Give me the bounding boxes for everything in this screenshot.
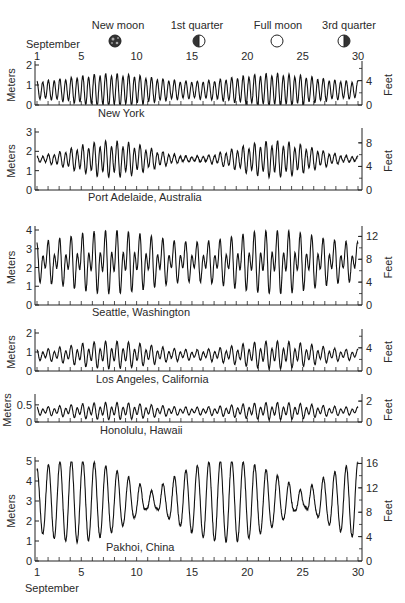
left-tick-label: 1 bbox=[26, 79, 32, 91]
right-tick-label: 4 bbox=[366, 160, 372, 172]
x-tick-label-bottom: 20 bbox=[241, 566, 253, 578]
month-label-top: September bbox=[26, 38, 80, 50]
right-tick-label: 12 bbox=[366, 482, 378, 494]
station-label: Port Adelaide, Australia bbox=[88, 191, 203, 203]
x-tick-label-top: 15 bbox=[186, 50, 198, 62]
tide-panel: 01204MetersFeetNew York bbox=[5, 59, 394, 119]
left-tick-label: 1 bbox=[26, 535, 32, 547]
right-tick-label: 12 bbox=[366, 230, 378, 242]
left-tick-label: 4 bbox=[26, 224, 32, 236]
tide-panel: 0123450481216MetersFeetPakhoi, China bbox=[5, 455, 394, 567]
first-quarter-icon bbox=[193, 35, 205, 47]
left-tick-label: 0 bbox=[26, 184, 32, 196]
chart-header: September New moon 1st quarter Full moon… bbox=[26, 19, 376, 50]
left-tick-label: 0.5 bbox=[17, 399, 32, 411]
right-tick-label: 2 bbox=[366, 395, 372, 407]
x-tick-label-top: 5 bbox=[78, 50, 84, 62]
ylabel-feet: Feet bbox=[382, 256, 394, 278]
x-tick-label-top: 20 bbox=[241, 50, 253, 62]
ylabel-feet: Feet bbox=[382, 500, 394, 522]
right-tick-label: 4 bbox=[366, 276, 372, 288]
station-label: Pakhoi, China bbox=[106, 541, 175, 553]
x-tick-label-bottom: 25 bbox=[297, 566, 309, 578]
right-tick-label: 0 bbox=[366, 99, 372, 111]
tide-panels: 01204MetersFeetNew York0123048MetersFeet… bbox=[1, 50, 394, 578]
left-tick-label: 3 bbox=[26, 243, 32, 255]
left-tick-label: 2 bbox=[26, 145, 32, 157]
right-tick-label: 0 bbox=[366, 299, 372, 311]
station-label: Los Angeles, California bbox=[96, 373, 209, 385]
ylabel-meters: Meters bbox=[5, 68, 17, 102]
tide-curve bbox=[37, 402, 358, 419]
tide-curve bbox=[37, 73, 358, 104]
tide-curve bbox=[37, 141, 358, 178]
left-tick-label: 2 bbox=[26, 327, 32, 339]
left-tick-label: 2 bbox=[26, 59, 32, 71]
moon-label-new: New moon bbox=[92, 19, 145, 31]
month-label-bottom: September bbox=[25, 582, 79, 594]
left-tick-label: 1 bbox=[26, 165, 32, 177]
right-tick-label: 8 bbox=[366, 506, 372, 518]
x-tick-label-top: 25 bbox=[297, 50, 309, 62]
ylabel-feet: Feet bbox=[382, 399, 394, 421]
left-tick-label: 2 bbox=[26, 262, 32, 274]
x-tick-label-bottom: 15 bbox=[186, 566, 198, 578]
right-tick-label: 0 bbox=[366, 365, 372, 377]
tide-panel: 0123048MetersFeetPort Adelaide, Australi… bbox=[5, 126, 394, 203]
right-tick-label: 4 bbox=[366, 342, 372, 354]
right-tick-label: 0 bbox=[366, 184, 372, 196]
ylabel-meters: Meters bbox=[5, 144, 17, 178]
left-tick-label: 2 bbox=[26, 515, 32, 527]
ylabel-meters: Meters bbox=[5, 335, 17, 369]
right-tick-label: 4 bbox=[366, 75, 372, 87]
left-tick-label: 0 bbox=[26, 299, 32, 311]
moon-phases: New moon 1st quarter Full moon 3rd quart… bbox=[92, 19, 377, 47]
left-tick-label: 0 bbox=[26, 416, 32, 428]
tide-curve bbox=[37, 231, 358, 294]
left-tick-label: 3 bbox=[26, 126, 32, 138]
left-tick-label: 0 bbox=[26, 555, 32, 567]
right-tick-label: 8 bbox=[366, 253, 372, 265]
left-tick-label: 0 bbox=[26, 99, 32, 111]
tide-chart: September New moon 1st quarter Full moon… bbox=[0, 0, 405, 603]
x-tick-label-bottom: 1 bbox=[34, 566, 40, 578]
moon-label-third-quarter: 3rd quarter bbox=[322, 19, 376, 31]
ylabel-meters: Meters bbox=[5, 250, 17, 284]
right-tick-label: 16 bbox=[366, 457, 378, 469]
tide-curve bbox=[37, 462, 358, 543]
right-tick-label: 0 bbox=[366, 416, 372, 428]
right-tick-label: 0 bbox=[366, 555, 372, 567]
ylabel-feet: Feet bbox=[382, 150, 394, 172]
x-tick-label-top: 30 bbox=[352, 50, 364, 62]
left-tick-label: 1 bbox=[26, 280, 32, 292]
station-label: Honolulu, Hawaii bbox=[100, 424, 183, 436]
x-tick-label-top: 10 bbox=[130, 50, 142, 62]
tide-curve bbox=[37, 341, 358, 369]
tide-panel: 01204MetersFeetLos Angeles, California bbox=[5, 327, 394, 385]
new-moon-icon bbox=[109, 35, 121, 47]
left-tick-label: 0 bbox=[26, 365, 32, 377]
ylabel-feet: Feet bbox=[382, 74, 394, 96]
station-label: New York bbox=[98, 107, 145, 119]
left-tick-label: 4 bbox=[26, 475, 32, 487]
moon-label-full: Full moon bbox=[254, 19, 302, 31]
left-tick-label: 3 bbox=[26, 495, 32, 507]
full-moon-icon bbox=[271, 35, 283, 47]
ylabel-meters: Meters bbox=[1, 393, 13, 427]
ylabel-feet: Feet bbox=[382, 341, 394, 363]
x-tick-label-bottom: 5 bbox=[78, 566, 84, 578]
third-quarter-icon bbox=[338, 35, 350, 47]
station-label: Seattle, Washington bbox=[92, 306, 190, 318]
x-tick-label-bottom: 10 bbox=[130, 566, 142, 578]
tide-panel: 0123404812MetersFeetSeattle, Washington bbox=[5, 224, 394, 318]
left-tick-label: 5 bbox=[26, 455, 32, 467]
tide-panel: 00.502MetersFeetHonolulu, Hawaii bbox=[1, 393, 394, 436]
moon-label-first-quarter: 1st quarter bbox=[171, 19, 224, 31]
left-tick-label: 1 bbox=[26, 346, 32, 358]
right-tick-label: 8 bbox=[366, 137, 372, 149]
x-tick-label-top: 1 bbox=[34, 50, 40, 62]
x-tick-label-bottom: 30 bbox=[352, 566, 364, 578]
ylabel-meters: Meters bbox=[5, 494, 17, 528]
right-tick-label: 4 bbox=[366, 531, 372, 543]
